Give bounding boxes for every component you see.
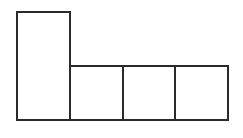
square-3 (175, 66, 228, 120)
block-diagram (0, 0, 243, 138)
square-2 (123, 66, 175, 120)
square-1 (70, 66, 123, 120)
tall-rectangle (17, 12, 70, 120)
